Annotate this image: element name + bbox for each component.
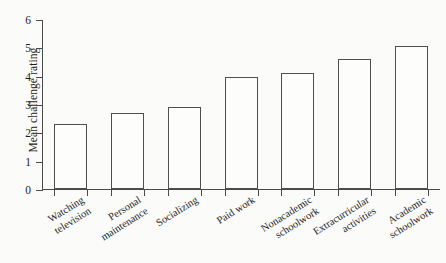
bar bbox=[111, 113, 144, 190]
y-axis-tick: 5 bbox=[36, 48, 43, 49]
bar bbox=[225, 77, 258, 189]
y-axis-tick: 4 bbox=[36, 77, 43, 78]
y-axis-tick-label: 4 bbox=[17, 69, 31, 85]
y-axis-tick-label: 6 bbox=[17, 12, 31, 28]
y-axis-tick: 3 bbox=[36, 105, 43, 106]
y-axis-tick-label: 1 bbox=[17, 154, 31, 170]
y-axis-tick: 6 bbox=[36, 20, 43, 21]
bar bbox=[54, 124, 87, 189]
x-axis-labels: Watching televisionPersonal maintenanceS… bbox=[0, 190, 446, 263]
y-axis-tick-label: 2 bbox=[17, 125, 31, 141]
y-axis-tick: 2 bbox=[36, 133, 43, 134]
bar bbox=[168, 107, 201, 189]
bar-chart: Mean challenge rating 0123456 Watching t… bbox=[0, 0, 446, 263]
y-axis-tick-label: 5 bbox=[17, 40, 31, 56]
y-axis-tick-label: 3 bbox=[17, 97, 31, 113]
bar bbox=[281, 73, 314, 189]
y-axis-tick: 1 bbox=[36, 162, 43, 163]
bar bbox=[338, 59, 371, 189]
bar bbox=[395, 46, 428, 189]
plot-area: 0123456 bbox=[42, 18, 440, 190]
